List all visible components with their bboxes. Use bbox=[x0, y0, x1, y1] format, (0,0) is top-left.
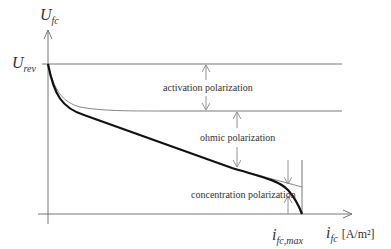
y-axis-subscript: fc bbox=[52, 15, 59, 26]
x-axis-subscript: fc bbox=[330, 233, 337, 244]
polarization-diagram bbox=[0, 0, 391, 249]
x-axis-label: ifc [A/m²] bbox=[326, 224, 375, 244]
u-rev-subscript: rev bbox=[24, 63, 36, 74]
y-axis-label: Ufc bbox=[40, 6, 59, 26]
y-axis-symbol: U bbox=[40, 6, 52, 23]
activation-polarization-label: activation polarization bbox=[163, 82, 253, 93]
i-max-subscript: fc,max bbox=[276, 235, 302, 246]
ohmic-polarization-label: ohmic polarization bbox=[200, 132, 275, 143]
concentration-polarization-label: concentration polarization bbox=[191, 189, 296, 200]
i-max-label: ifc,max bbox=[272, 226, 303, 246]
u-rev-symbol: U bbox=[12, 54, 24, 71]
u-rev-label: Urev bbox=[12, 54, 36, 74]
x-axis-unit: [A/m²] bbox=[342, 227, 375, 241]
